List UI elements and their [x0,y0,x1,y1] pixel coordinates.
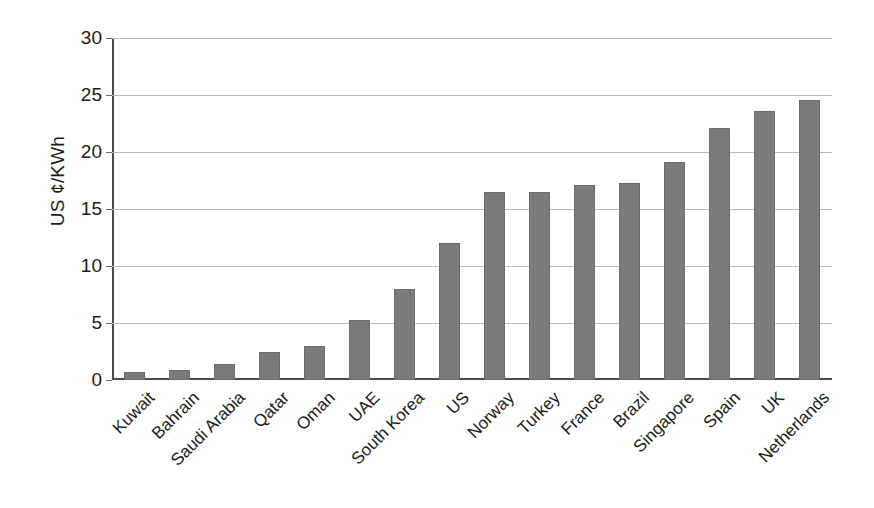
y-axis-tick-label: 0 [62,370,102,389]
y-axis-tick-label: 10 [62,256,102,275]
plot-area [112,38,832,380]
x-axis-tick-label: UK [757,388,788,419]
x-axis-tick-label: Qatar [249,388,293,432]
bar [259,352,280,381]
x-axis-tick-label: Spain [699,388,744,433]
y-axis-tick [106,152,112,153]
x-axis-tick-label: France [557,388,609,440]
y-axis-tick [106,95,112,96]
y-axis-tick [106,38,112,39]
bar [349,320,370,380]
bar [529,192,550,380]
gridline [112,38,832,39]
x-axis-tick-label: Turkey [514,388,564,438]
bar [439,243,460,380]
gridline [112,95,832,96]
bar [124,372,145,380]
y-axis-tick [106,380,112,381]
y-axis-tick-label: 25 [62,85,102,104]
bar [664,162,685,380]
y-axis-tick [106,209,112,210]
x-axis-tick-label: Norway [463,388,518,443]
bar [214,364,235,380]
x-axis-tick-label: US [442,388,473,419]
x-axis-tick-label: UAE [345,388,384,427]
x-axis-tick-label: Oman [292,388,339,435]
bar [394,289,415,380]
bar [619,183,640,380]
y-axis-tick-label: 15 [62,199,102,218]
bar [574,185,595,380]
y-axis-tick-label: 20 [62,142,102,161]
y-axis-tick [106,266,112,267]
bar [484,192,505,380]
bar [754,111,775,380]
bar [169,370,190,380]
y-axis-tick-label: 5 [62,313,102,332]
bar [799,100,820,380]
bar [304,346,325,380]
y-axis-tick [106,323,112,324]
bar [709,128,730,380]
y-axis-tick-label: 30 [62,28,102,47]
y-axis-title: US ¢/KWh [47,101,69,261]
bar-chart: US ¢/KWh 051015202530 KuwaitBahrainSaudi… [0,0,874,508]
